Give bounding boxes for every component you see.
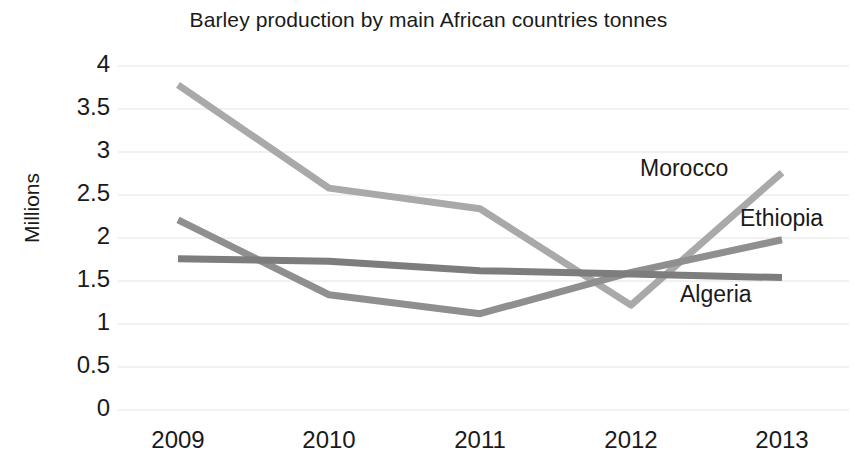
x-tick-label: 2010 bbox=[269, 428, 389, 452]
y-tick-label: 3.5 bbox=[0, 95, 110, 119]
y-tick-label: 0.5 bbox=[0, 353, 110, 377]
y-tick-label: 3 bbox=[0, 138, 110, 162]
plot-area bbox=[0, 0, 857, 473]
x-tick-label: 2012 bbox=[571, 428, 691, 452]
x-tick-label: 2009 bbox=[118, 428, 238, 452]
series-lines-group bbox=[178, 85, 782, 314]
y-tick-label: 1 bbox=[0, 310, 110, 334]
y-tick-label: 2.5 bbox=[0, 181, 110, 205]
y-tick-label: 1.5 bbox=[0, 267, 110, 291]
x-tick-label: 2011 bbox=[420, 428, 540, 452]
series-label-algeria: Algeria bbox=[680, 283, 752, 306]
x-tick-label: 2013 bbox=[722, 428, 842, 452]
y-tick-label: 4 bbox=[0, 52, 110, 76]
y-tick-label: 2 bbox=[0, 224, 110, 248]
chart-container: Barley production by main African countr… bbox=[0, 0, 857, 473]
series-label-morocco: Morocco bbox=[640, 157, 728, 180]
y-tick-label: 0 bbox=[0, 396, 110, 420]
series-label-ethiopia: Ethiopia bbox=[740, 207, 823, 230]
